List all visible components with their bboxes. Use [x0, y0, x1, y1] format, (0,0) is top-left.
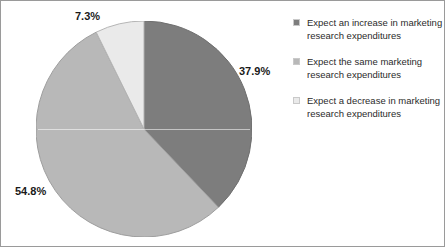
- legend-label-same-line1: Expect the same marketing: [307, 56, 422, 67]
- legend-label-increase-line1: Expect an increase in marketing: [307, 17, 442, 28]
- legend-swatch-increase: [293, 19, 300, 26]
- legend-item-decrease[interactable]: Expect a decrease in marketing research …: [293, 94, 443, 120]
- legend-label-increase-line2: research expenditures: [307, 30, 401, 41]
- legend-label-decrease-line2: research expenditures: [307, 108, 401, 119]
- legend-label-same-line2: research expenditures: [307, 69, 401, 80]
- legend-label-decrease-line1: Expect a decrease in marketing: [307, 95, 440, 106]
- legend-label-increase: Expect an increase in marketing research…: [307, 16, 442, 42]
- legend-label-decrease: Expect a decrease in marketing research …: [307, 94, 440, 120]
- chart-legend: Expect an increase in marketing research…: [293, 16, 443, 133]
- pie-label-decrease: 7.3%: [75, 10, 100, 22]
- pie-label-same: 54.8%: [15, 185, 46, 197]
- pie-chart-figure: 37.9% 54.8% 7.3% Expect an increase in m…: [0, 0, 445, 247]
- legend-item-increase[interactable]: Expect an increase in marketing research…: [293, 16, 443, 42]
- pie-chart-graphic: [36, 21, 252, 237]
- pie-label-increase: 37.9%: [239, 65, 270, 77]
- legend-item-same[interactable]: Expect the same marketing research expen…: [293, 55, 443, 81]
- legend-label-same: Expect the same marketing research expen…: [307, 55, 422, 81]
- pie-svg: [36, 21, 252, 237]
- legend-swatch-decrease: [293, 97, 300, 104]
- legend-swatch-same: [293, 58, 300, 65]
